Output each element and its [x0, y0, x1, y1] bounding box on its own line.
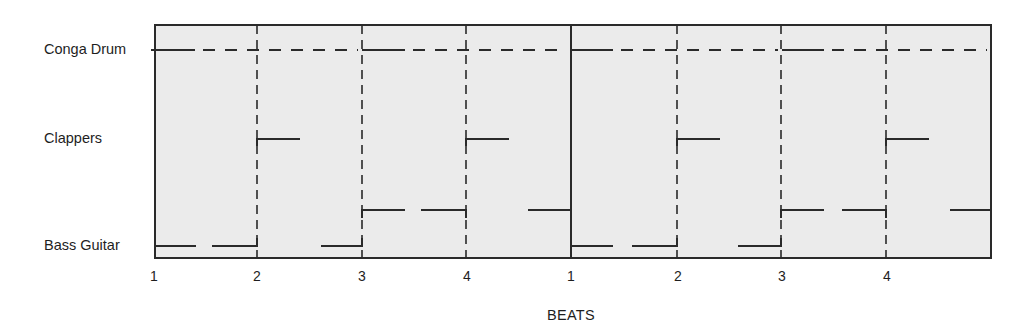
beat-label: 2 [674, 268, 682, 284]
beat-label: 1 [150, 268, 158, 284]
beat-label: 4 [463, 268, 471, 284]
beat-label: 3 [778, 268, 786, 284]
plot-frame [155, 25, 991, 258]
axis-title-beats: BEATS [547, 307, 595, 323]
row-label-conga-drum: Conga Drum [44, 41, 126, 57]
beat-label: 1 [567, 268, 575, 284]
beat-label: 2 [253, 268, 261, 284]
beat-label: 4 [883, 268, 891, 284]
rhythm-diagram [0, 0, 1031, 336]
row-label-clappers: Clappers [44, 130, 102, 146]
frame-rect [155, 25, 991, 258]
row-label-bass-guitar: Bass Guitar [44, 237, 120, 253]
beat-label: 3 [358, 268, 366, 284]
